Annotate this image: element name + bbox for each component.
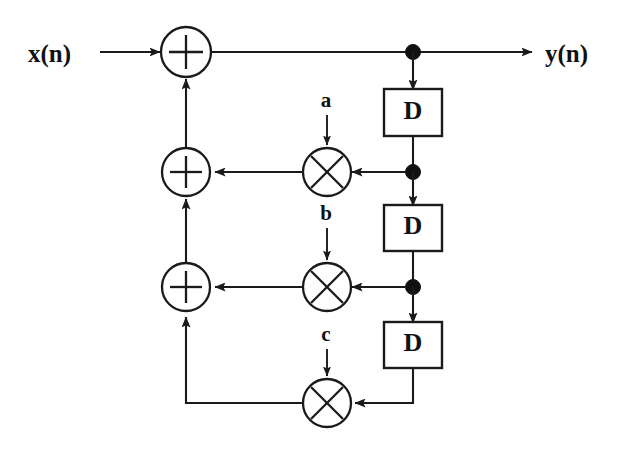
input-label: x(n) xyxy=(28,40,71,68)
wire-delay3-to-multiplier-c xyxy=(355,368,413,403)
wire-multiplier-c-to-lower-adder xyxy=(186,317,303,403)
delay-box-2-label: D xyxy=(404,211,423,240)
coefficient-label-a: a xyxy=(321,88,332,112)
delay-box-1-label: D xyxy=(404,96,423,125)
delay-box-3-label: D xyxy=(404,328,423,357)
coefficient-label-c: c xyxy=(321,322,330,346)
coefficient-label-b: b xyxy=(320,201,332,225)
diagram-canvas: D a D b xyxy=(0,0,619,450)
output-label: y(n) xyxy=(545,40,588,68)
signal-flow-diagram: D a D b xyxy=(0,0,619,450)
